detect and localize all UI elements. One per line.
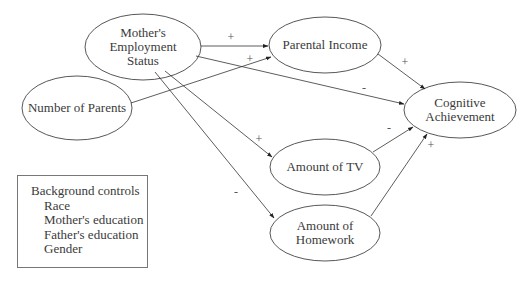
label-mother-employment: Mother's Employment Status <box>109 26 176 68</box>
sign-parents-income: + <box>247 52 254 67</box>
control-race: Race <box>31 199 147 214</box>
label-parental-income: Parental Income <box>283 38 368 52</box>
background-controls-title: Background controls <box>31 184 147 199</box>
edge-homework-to-cognitive <box>371 134 427 216</box>
control-mothers-education: Mother's education <box>31 213 147 228</box>
control-gender: Gender <box>31 242 147 257</box>
background-controls-box: Background controls Race Mother's educat… <box>17 175 148 268</box>
sign-mother-income: + <box>228 30 235 45</box>
label-cognitive-achievement: Cognitive Achievement <box>425 96 494 124</box>
label-amount-of-tv: Amount of TV <box>286 160 363 174</box>
control-fathers-education: Father's education <box>31 228 147 243</box>
sign-mother-tv: + <box>256 132 263 147</box>
label-number-of-parents: Number of Parents <box>28 101 126 115</box>
sign-mother-homework: - <box>234 185 238 200</box>
sign-income-cognitive: + <box>402 55 409 70</box>
label-amount-of-homework: Amount of Homework <box>296 219 355 247</box>
sign-mother-cognitive: - <box>362 81 366 96</box>
edge-tv-to-cognitive <box>373 127 413 152</box>
edge-mother-to-cognitive <box>196 56 404 104</box>
sign-tv-cognitive: - <box>387 121 391 136</box>
sign-homework-cognitive: + <box>428 138 435 153</box>
